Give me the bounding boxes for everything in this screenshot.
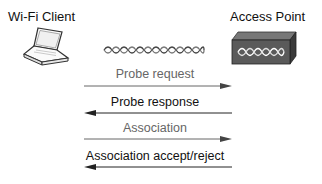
access-point-label: Access Point <box>230 9 305 24</box>
arrow-left-icon <box>84 109 232 117</box>
laptop-icon <box>22 26 80 68</box>
wireless-signal-icon <box>103 44 206 56</box>
arrow-left-icon <box>84 163 232 171</box>
message-label-probe-response: Probe response <box>75 95 235 109</box>
message-label-association: Association <box>75 121 235 135</box>
message-label-probe-request: Probe request <box>75 67 235 81</box>
access-point-icon <box>230 30 298 66</box>
client-label: Wi-Fi Client <box>8 9 75 24</box>
arrow-right-icon <box>84 82 232 90</box>
arrow-right-icon <box>84 135 232 143</box>
message-label-association-accept-reject: Association accept/reject <box>75 149 235 163</box>
